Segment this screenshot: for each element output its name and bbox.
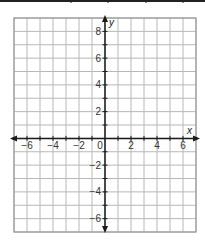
y-axis-label: y (108, 17, 115, 28)
x-tick-label: 2 (128, 140, 134, 151)
y-tick-label: 2 (95, 106, 101, 117)
x-tick-label: −6 (21, 140, 33, 151)
axes (10, 15, 200, 233)
x-tick-label: 6 (180, 140, 186, 151)
coordinate-grid: −6−4−20246 8642−2−4−6 x y (0, 0, 205, 245)
y-tick-label: 6 (95, 53, 101, 64)
x-tick-label: −4 (47, 140, 59, 151)
y-tick-label: −2 (90, 160, 102, 171)
x-tick-label: 0 (97, 140, 103, 151)
y-tick-label: 8 (95, 26, 101, 37)
x-axis-label: x (186, 125, 193, 136)
x-axis-ticks: −6−4−20246 (21, 140, 186, 151)
y-tick-label: −6 (90, 213, 102, 224)
x-tick-label: 4 (154, 140, 160, 151)
x-tick-label: −2 (73, 140, 85, 151)
y-tick-label: −4 (90, 186, 102, 197)
y-tick-label: 4 (95, 79, 101, 90)
